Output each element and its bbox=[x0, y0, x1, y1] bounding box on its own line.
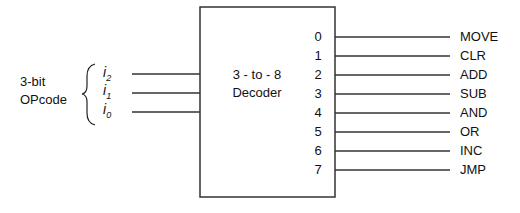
output-label-and: AND bbox=[460, 105, 487, 120]
output-label-sub: SUB bbox=[460, 86, 487, 101]
output-label-inc: INC bbox=[460, 143, 482, 158]
input-label-i1: i1 bbox=[103, 82, 111, 101]
output-index-7: 7 bbox=[314, 162, 321, 177]
output-index-1: 1 bbox=[314, 48, 321, 63]
output-index-5: 5 bbox=[314, 124, 321, 139]
svg-text:i1: i1 bbox=[103, 82, 111, 101]
svg-text:i2: i2 bbox=[103, 64, 111, 83]
output-index-2: 2 bbox=[314, 67, 321, 82]
decoder-title-line2: Decoder bbox=[232, 85, 282, 100]
output-index-6: 6 bbox=[314, 143, 321, 158]
input-group-label-line2: OPcode bbox=[20, 92, 67, 107]
output-label-add: ADD bbox=[460, 67, 487, 82]
decoder-title-line1: 3 - to - 8 bbox=[233, 67, 281, 82]
output-label-jmp: JMP bbox=[460, 162, 486, 177]
output-label-clr: CLR bbox=[460, 48, 486, 63]
output-label-or: OR bbox=[460, 124, 480, 139]
input-label-i0: i0 bbox=[103, 101, 111, 120]
curly-brace-icon bbox=[82, 64, 95, 125]
output-index-4: 4 bbox=[314, 105, 321, 120]
output-label-move: MOVE bbox=[460, 29, 499, 44]
input-group-label-line1: 3-bit bbox=[20, 74, 46, 89]
decoder-diagram: 3-bit OPcode i2 i1 i0 3 - to - 8 Decoder… bbox=[0, 0, 520, 213]
output-index-0: 0 bbox=[314, 29, 321, 44]
input-label-i2: i2 bbox=[103, 64, 111, 83]
output-index-3: 3 bbox=[314, 86, 321, 101]
svg-text:i0: i0 bbox=[103, 101, 111, 120]
